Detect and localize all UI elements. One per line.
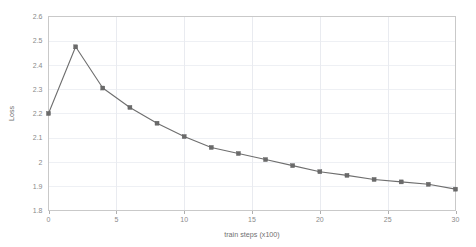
y-tick-label: 2.4 (33, 62, 43, 69)
y-tick-label: 1.8 (33, 207, 43, 214)
x-tick-label: 20 (316, 216, 324, 223)
x-tick-label: 30 (452, 216, 460, 223)
y-tick-label: 2.2 (33, 110, 43, 117)
data-point-marker (155, 121, 159, 125)
loss-curve-chart: 1.81.922.12.22.32.42.52.6 051015202530 t… (0, 0, 476, 247)
data-point-marker (399, 180, 403, 184)
x-tick-label: 25 (384, 216, 392, 223)
data-point-marker (128, 105, 132, 109)
data-point-marker (345, 173, 349, 177)
y-tick-label: 2.6 (33, 13, 43, 20)
data-point-marker (74, 45, 78, 49)
x-tick-label: 0 (47, 216, 51, 223)
x-axis-title: train steps (x100) (224, 230, 280, 239)
data-point-marker (47, 112, 51, 116)
y-tick-label: 2.3 (33, 86, 43, 93)
data-point-marker (264, 158, 268, 162)
data-point-marker (101, 86, 105, 90)
y-tick-label: 1.9 (33, 183, 43, 190)
data-point-marker (182, 135, 186, 139)
x-tick-label: 15 (248, 216, 256, 223)
y-axis-title: Loss (7, 106, 16, 122)
data-point-marker (372, 177, 376, 181)
x-axis-tick-labels: 051015202530 (47, 216, 460, 223)
y-tick-label: 2.1 (33, 134, 43, 141)
data-point-marker (236, 152, 240, 156)
x-tick-label: 10 (180, 216, 188, 223)
y-axis-tick-labels: 1.81.922.12.22.32.42.52.6 (33, 13, 43, 214)
y-tick-label: 2.5 (33, 37, 43, 44)
data-point-marker (209, 145, 213, 149)
chart-canvas: 1.81.922.12.22.32.42.52.6 051015202530 t… (0, 0, 476, 247)
y-tick-label: 2 (39, 159, 43, 166)
data-point-marker (454, 187, 458, 191)
data-point-marker (291, 164, 295, 168)
data-point-marker (426, 182, 430, 186)
x-tick-label: 5 (114, 216, 118, 223)
data-point-marker (318, 170, 322, 174)
